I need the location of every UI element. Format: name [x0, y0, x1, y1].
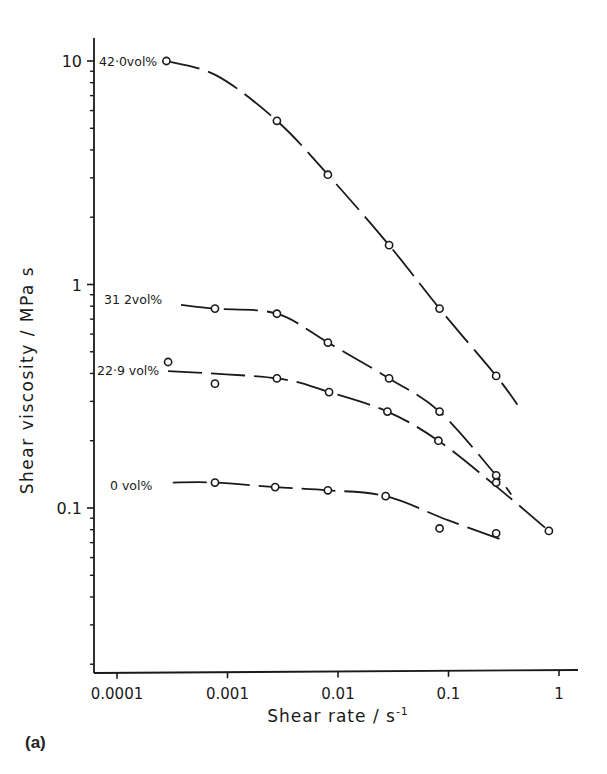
data-point-marker [385, 242, 392, 249]
series-0-vol- [173, 479, 506, 541]
data-point-marker [325, 389, 332, 396]
data-point-marker [382, 493, 389, 500]
series-label: 31 2vol% [104, 292, 162, 307]
fit-curve [181, 305, 511, 494]
data-point-marker [273, 375, 280, 382]
data-point-marker [545, 527, 552, 534]
data-point-marker [273, 117, 280, 124]
series-layer [163, 57, 553, 541]
data-point-marker [493, 372, 500, 379]
data-point-marker [493, 472, 500, 479]
data-point-marker [211, 305, 218, 312]
data-point-marker [163, 57, 170, 64]
data-point-marker [436, 408, 443, 415]
data-point-marker [211, 380, 218, 387]
series-label: 22·9 vol% [97, 363, 159, 378]
data-point-marker [436, 305, 443, 312]
x-tick-label: 0.1 [437, 685, 461, 703]
data-point-marker [211, 479, 218, 486]
fit-curve [173, 482, 506, 541]
x-tick-label: 0.01 [321, 685, 354, 703]
axes [87, 38, 578, 679]
series-22-9-vol- [164, 358, 552, 534]
data-point-marker [324, 487, 331, 494]
x-axis-title: Shear rate / s-1 [267, 705, 409, 726]
series-label: 0 vol% [110, 478, 152, 493]
x-tick-label: 0.001 [206, 685, 249, 703]
series-31-2-vol- [181, 305, 511, 494]
data-point-marker [493, 479, 500, 486]
x-tick-label: 0.0001 [91, 685, 144, 703]
data-point-marker [436, 525, 443, 532]
y-tick-label: 1 [72, 276, 82, 295]
data-point-marker [273, 310, 280, 317]
x-axis-line [94, 670, 578, 673]
y-tick-label: 10 [62, 52, 82, 71]
labels: 0.11100.00010.0010.010.11Shear rate / s-… [17, 52, 564, 726]
data-point-marker [272, 484, 279, 491]
series-label: 42·0vol% [99, 54, 157, 69]
data-point-marker [493, 530, 500, 537]
fit-curve [166, 61, 517, 405]
fit-curve [168, 371, 549, 531]
data-point-marker [164, 358, 171, 365]
data-point-marker [384, 408, 391, 415]
data-point-marker [385, 375, 392, 382]
y-axis-title: Shear viscosity / MPa s [17, 266, 37, 494]
data-point-marker [324, 171, 331, 178]
y-tick-label: 0.1 [57, 499, 82, 518]
x-tick-label: 1 [554, 685, 564, 703]
panel-label: (a) [25, 733, 46, 753]
data-point-marker [324, 339, 331, 346]
series-42-0-vol- [163, 57, 518, 404]
data-point-marker [435, 437, 442, 444]
shear-viscosity-chart: 0.11100.00010.0010.010.11Shear rate / s-… [0, 0, 607, 774]
